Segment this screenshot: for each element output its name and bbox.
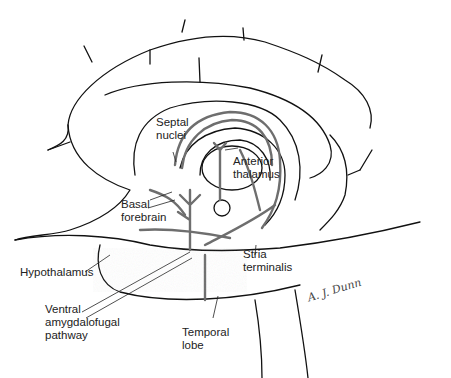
label-line: nuclei bbox=[156, 129, 189, 142]
cingulate-inner-outline bbox=[15, 125, 130, 240]
label-septal-nuclei: Septal nuclei bbox=[156, 116, 189, 142]
label-stria-terminalis: Stria terminalis bbox=[243, 248, 292, 274]
label-ventral-amygdalofugal-pathway: Ventral amygdalofugal pathway bbox=[45, 303, 120, 342]
label-basal-forebrain: Basal forebrain bbox=[121, 198, 166, 224]
label-line: forebrain bbox=[121, 211, 166, 224]
label-line: terminalis bbox=[243, 261, 292, 274]
brain-diagram: Septal nuclei Anterior thalamus Basal fo… bbox=[0, 0, 451, 378]
label-line: lobe bbox=[182, 339, 229, 352]
label-line: Anterior bbox=[233, 155, 280, 168]
label-line: Ventral bbox=[45, 303, 120, 316]
brainstem-outline bbox=[255, 300, 262, 378]
label-line: Hypothalamus bbox=[20, 266, 94, 279]
label-line: Stria bbox=[243, 248, 292, 261]
label-line: pathway bbox=[45, 329, 120, 342]
label-line: amygdalofugal bbox=[45, 316, 120, 329]
label-hypothalamus: Hypothalamus bbox=[20, 266, 94, 279]
label-line: Septal bbox=[156, 116, 189, 129]
label-temporal-lobe: Temporal lobe bbox=[182, 326, 229, 352]
label-line: thalamus bbox=[233, 168, 280, 181]
label-anterior-thalamus: Anterior thalamus bbox=[233, 155, 280, 181]
stipple-shading bbox=[100, 250, 240, 290]
label-line: Basal bbox=[121, 198, 166, 211]
label-line: Temporal bbox=[182, 326, 229, 339]
